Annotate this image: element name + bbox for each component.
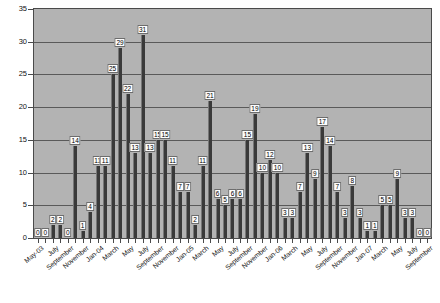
bar-value-label: 0 [34, 228, 42, 237]
bar [133, 153, 137, 238]
bar-series: 0022014141111252922133113151511772112165… [34, 9, 431, 238]
bar-slot: 3 [341, 9, 348, 238]
x-axis-tick-mark [98, 239, 99, 243]
bar-value-label: 3 [341, 208, 349, 217]
bar [290, 218, 294, 238]
x-axis-tick-mark [135, 239, 136, 243]
x-axis-tick-mark [210, 239, 211, 243]
x-axis: May-03JulySeptemberNovemberJan-04MarchMa… [34, 239, 431, 303]
bar-slot: 7 [334, 9, 341, 238]
bar [230, 199, 234, 238]
bar-value-label: 0 [423, 228, 431, 237]
x-axis-tick-mark [128, 239, 129, 243]
bar-value-label: 9 [311, 169, 319, 178]
bar [58, 225, 62, 238]
bar-slot: 4 [86, 9, 93, 238]
bar [171, 166, 175, 238]
bar-slot: 2 [191, 9, 198, 238]
x-axis-tick-label: May [211, 245, 225, 258]
bar [186, 192, 190, 238]
bar [163, 140, 167, 238]
bar-slot: 22 [124, 9, 131, 238]
x-axis-tick-mark [390, 239, 391, 243]
bar-slot: 7 [176, 9, 183, 238]
bar [388, 205, 392, 238]
bar-value-label: 7 [184, 182, 192, 191]
x-axis-tick-label: May [301, 245, 315, 258]
x-axis-tick-mark [255, 239, 256, 243]
bar-slot: 11 [94, 9, 101, 238]
bar-value-label: 5 [386, 195, 394, 204]
bar [350, 186, 354, 238]
x-axis-tick-mark [203, 239, 204, 243]
bar [141, 35, 145, 238]
x-axis-tick-mark [68, 239, 69, 243]
y-axis-tick-label: 15 [19, 136, 27, 144]
bar [245, 140, 249, 238]
bar-value-label: 3 [289, 208, 297, 217]
x-axis-tick-mark [397, 239, 398, 243]
x-axis-tick-mark [195, 239, 196, 243]
x-axis-tick-mark [270, 239, 271, 243]
bar-value-label: 3 [408, 208, 416, 217]
bar-value-label: 0 [416, 228, 424, 237]
bar-value-label: 2 [56, 215, 64, 224]
bar-slot: 15 [161, 9, 168, 238]
bar-slot: 2 [56, 9, 63, 238]
bar-slot: 1 [364, 9, 371, 238]
x-axis-tick-mark [233, 239, 234, 243]
y-axis-tick-label: 30 [19, 38, 27, 46]
bar-slot: 13 [131, 9, 138, 238]
bar-value-label: 6 [214, 189, 222, 198]
bar [111, 74, 115, 238]
x-axis-tick-mark [300, 239, 301, 243]
x-axis-tick-mark [412, 239, 413, 243]
x-axis-tick-mark [262, 239, 263, 243]
bar-slot: 15 [244, 9, 251, 238]
y-axis-tick-label: 25 [19, 71, 27, 79]
x-axis-tick-mark [60, 239, 61, 243]
x-axis-tick-mark [420, 239, 421, 243]
bar [305, 153, 309, 238]
bar-slot: 12 [266, 9, 273, 238]
x-axis-tick-mark [225, 239, 226, 243]
bar-value-label: 7 [176, 182, 184, 191]
bar-slot: 17 [319, 9, 326, 238]
bar [118, 48, 122, 238]
bar [253, 114, 257, 238]
bar-slot: 8 [349, 9, 356, 238]
bar-slot: 0 [34, 9, 41, 238]
x-axis-tick-mark [158, 239, 159, 243]
bar-value-label: 5 [378, 195, 386, 204]
bar-slot: 13 [146, 9, 153, 238]
bar-slot: 0 [424, 9, 431, 238]
bar [103, 166, 107, 238]
bar [313, 179, 317, 238]
x-axis-tick-mark [337, 239, 338, 243]
x-axis-tick-label: May [121, 245, 135, 258]
bar-value-label: 8 [349, 176, 357, 185]
x-axis-tick-mark [120, 239, 121, 243]
bar [178, 192, 182, 238]
bar-value-label: 1 [79, 221, 87, 230]
x-axis-tick-mark [277, 239, 278, 243]
x-axis-tick-label: May [390, 245, 404, 258]
y-axis-tick-label: 20 [19, 103, 27, 111]
bar [373, 231, 377, 238]
bar-slot: 3 [281, 9, 288, 238]
bar [380, 205, 384, 238]
bar [238, 199, 242, 238]
bar-slot: 13 [304, 9, 311, 238]
x-axis-tick-mark [188, 239, 189, 243]
bar [216, 199, 220, 238]
bar-slot: 0 [41, 9, 48, 238]
x-axis-tick-mark [75, 239, 76, 243]
bar-slot: 6 [229, 9, 236, 238]
x-axis-tick-mark [53, 239, 54, 243]
chart-figure: 05101520253035 0022014141111252922133113… [0, 0, 440, 303]
bar-slot: 3 [401, 9, 408, 238]
x-axis-tick-label: March [371, 245, 390, 262]
bar-slot: 5 [221, 9, 228, 238]
x-axis-tick-mark [90, 239, 91, 243]
bar-slot: 2 [49, 9, 56, 238]
